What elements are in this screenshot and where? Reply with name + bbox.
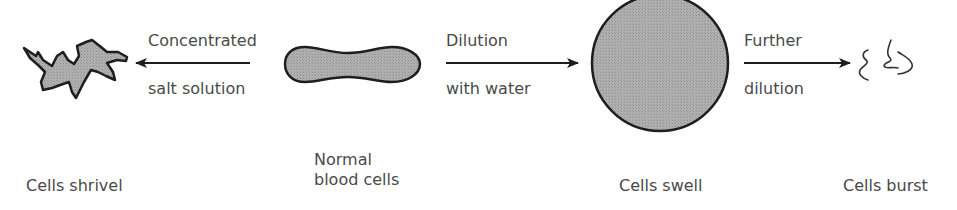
normal-cell-icon (285, 47, 420, 82)
stage-label-burst: Cells burst (843, 177, 928, 195)
stage-label-shrivel: Cells shrivel (26, 177, 123, 195)
burst-cell-fragments-icon (859, 40, 912, 80)
swollen-cell-icon (592, 0, 728, 131)
arrow-label-salt-solution: salt solution (148, 80, 245, 98)
stage-label-swell: Cells swell (619, 177, 702, 195)
arrow-label-dilution-2: dilution (744, 80, 804, 98)
arrow-label-dilution: Dilution (446, 32, 508, 50)
stage-label-normal-line2: blood cells (314, 171, 399, 189)
shrivelled-cell-icon (24, 40, 127, 98)
arrow-label-with-water: with water (446, 80, 531, 98)
arrow-label-concentrated: Concentrated (148, 32, 257, 50)
stage-label-normal-line1: Normal (314, 151, 372, 169)
arrow-label-further: Further (744, 32, 802, 50)
